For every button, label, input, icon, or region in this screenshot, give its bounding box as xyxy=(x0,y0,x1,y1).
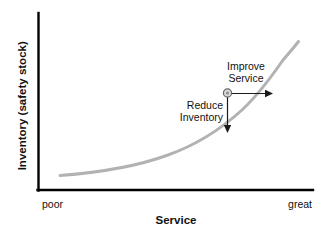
operating-point-marker-center xyxy=(226,92,229,95)
reduce-inventory-arrowhead xyxy=(224,125,231,133)
reduce-inventory-label: Reduce Inventory xyxy=(160,99,223,124)
reduce-inventory-label-line2: Inventory xyxy=(160,111,223,123)
y-axis-title: Inventory (safety stock) xyxy=(16,21,30,191)
improve-service-label-line1: Improve xyxy=(227,60,265,72)
improve-service-label-line2: Service xyxy=(212,72,280,84)
x-tick-label-poor: poor xyxy=(42,198,63,210)
x-axis-title: Service xyxy=(96,214,256,228)
x-tick-label-great: great xyxy=(266,198,312,210)
improve-service-label: Improve Service xyxy=(212,60,280,85)
improve-service-arrowhead xyxy=(265,90,273,97)
chart-figure: Inventory (safety stock) Service poor gr… xyxy=(0,0,333,236)
reduce-inventory-label-line1: Reduce xyxy=(187,99,223,111)
